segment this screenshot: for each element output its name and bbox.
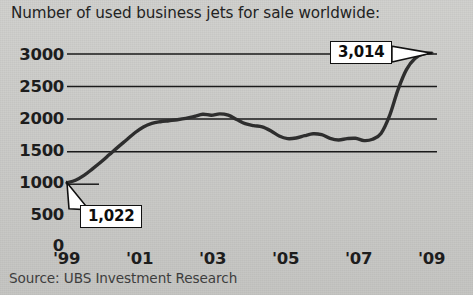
chart-figure: Number of used business jets for sale wo… bbox=[0, 0, 473, 295]
source-attribution: Source: UBS Investment Research bbox=[9, 270, 237, 286]
data-callout-start: 1,022 bbox=[80, 205, 142, 228]
plot-area bbox=[0, 0, 473, 295]
gridlines bbox=[67, 54, 437, 184]
data-series-line bbox=[67, 53, 432, 183]
data-callout-end: 3,014 bbox=[330, 41, 392, 64]
